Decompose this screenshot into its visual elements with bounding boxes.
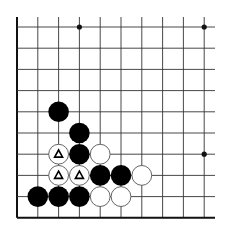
star-point-icon xyxy=(202,152,207,157)
white-stone xyxy=(49,144,69,164)
black-stone xyxy=(69,123,90,144)
go-board xyxy=(0,0,231,236)
white-stone-icon xyxy=(70,166,90,186)
white-stone-icon xyxy=(90,187,110,207)
white-stone xyxy=(132,166,152,186)
black-stone xyxy=(28,186,49,207)
white-stone xyxy=(111,187,131,207)
white-stone xyxy=(90,144,110,164)
black-stone-icon xyxy=(90,165,111,186)
black-stone xyxy=(111,165,132,186)
white-stone-icon xyxy=(49,166,69,186)
black-stone-icon xyxy=(28,186,49,207)
white-stone-icon xyxy=(132,166,152,186)
black-stone xyxy=(90,165,111,186)
black-stone-icon xyxy=(69,123,90,144)
black-stone xyxy=(48,102,69,123)
black-stone-icon xyxy=(111,165,132,186)
black-stone xyxy=(69,186,90,207)
white-stone xyxy=(90,187,110,207)
star-point-icon xyxy=(202,24,207,29)
white-stone xyxy=(70,166,90,186)
black-stone xyxy=(48,186,69,207)
white-stone xyxy=(49,166,69,186)
white-stone-icon xyxy=(90,144,110,164)
black-stone-icon xyxy=(69,186,90,207)
white-stone-icon xyxy=(49,144,69,164)
white-stone-icon xyxy=(111,187,131,207)
black-stone-icon xyxy=(69,144,90,165)
star-point-icon xyxy=(77,24,82,29)
black-stone xyxy=(69,144,90,165)
black-stone-icon xyxy=(48,102,69,123)
black-stone-icon xyxy=(48,186,69,207)
